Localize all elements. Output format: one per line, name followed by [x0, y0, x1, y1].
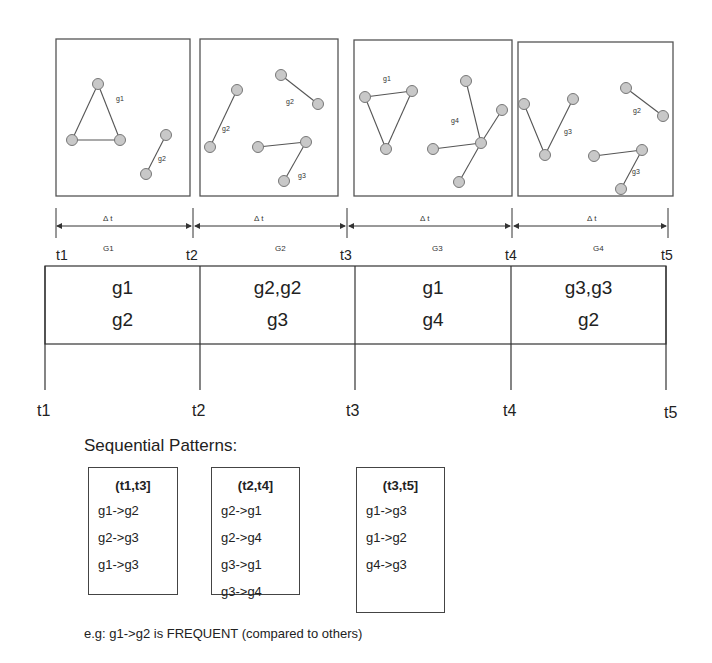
timeline-cell-line2: g3 — [200, 309, 355, 331]
timeline-cell-line1: g3,g3 — [511, 277, 666, 299]
group-label: G2 — [275, 244, 286, 253]
pattern-item: g1->g2 — [98, 503, 139, 518]
graph-label: g3 — [298, 172, 306, 179]
tick-label: t4 — [503, 402, 516, 420]
tick-label: t4 — [505, 247, 517, 263]
pattern-item: g1->g3 — [98, 557, 139, 572]
tick-label: t1 — [56, 247, 68, 263]
tick-label: t2 — [192, 402, 205, 420]
pattern-window-header: (t3,t5] — [357, 478, 444, 493]
interval-axis — [56, 208, 668, 238]
pattern-window-header: (t2,t4] — [212, 478, 299, 493]
timeline-cell-line2: g2 — [45, 309, 200, 331]
delta-t-label: Δ t — [254, 214, 263, 223]
group-label: G1 — [103, 244, 114, 253]
graph-label: g1 — [116, 95, 124, 102]
graph-label: g2 — [222, 125, 230, 132]
graph-panel-g2 — [200, 39, 338, 196]
delta-t-label: Δ t — [420, 214, 429, 223]
tick-label: t5 — [661, 247, 673, 263]
pattern-item: g3->g1 — [221, 557, 262, 572]
timeline-cell-line1: g1 — [355, 277, 511, 299]
tick-label: t3 — [346, 402, 359, 420]
tick-label: t3 — [340, 247, 352, 263]
graph-label: g2 — [286, 98, 294, 105]
pattern-item: g2->g4 — [221, 530, 262, 545]
graph-label: g2 — [158, 155, 166, 162]
graph-label: g2 — [633, 107, 641, 114]
timeline-cell-line1: g1 — [45, 277, 200, 299]
tick-label: t5 — [664, 404, 677, 422]
pattern-item: g3->g4 — [221, 584, 262, 599]
tick-label: t1 — [37, 402, 50, 420]
graph-label: g4 — [451, 117, 459, 124]
pattern-item: g2->g1 — [221, 503, 262, 518]
pattern-window-t1-t3: (t1,t3] g1->g2 g2->g3 g1->g3 — [88, 467, 178, 595]
graph-panel-g1 — [56, 39, 190, 196]
pattern-item: g1->g3 — [366, 503, 407, 518]
group-label: G4 — [593, 244, 604, 253]
frequency-note: e.g: g1->g2 is FREQUENT (compared to oth… — [84, 626, 362, 641]
graph-label: g3 — [632, 168, 640, 175]
tick-label: t2 — [186, 247, 198, 263]
graph-panel-g3 — [354, 40, 512, 196]
pattern-window-t3-t5: (t3,t5] g1->g3 g1->g2 g4->g3 — [356, 467, 445, 613]
pattern-item: g4->g3 — [366, 557, 407, 572]
graph-panel-g4 — [518, 42, 673, 196]
group-label: G3 — [432, 244, 443, 253]
pattern-item: g1->g2 — [366, 530, 407, 545]
delta-t-label: Δ t — [103, 214, 112, 223]
delta-t-label: Δ t — [587, 214, 596, 223]
graph-label: g1 — [383, 75, 391, 82]
sequential-patterns-title: Sequential Patterns: — [84, 436, 237, 456]
timeline-cell-line2: g4 — [355, 309, 511, 331]
timeline-cell-line2: g2 — [511, 309, 666, 331]
timeline-cell-line1: g2,g2 — [200, 277, 355, 299]
graph-label: g3 — [564, 128, 572, 135]
pattern-window-t2-t4: (t2,t4] g2->g1 g2->g4 g3->g1 g3->g4 — [211, 467, 300, 595]
pattern-window-header: (t1,t3] — [89, 478, 177, 493]
pattern-item: g2->g3 — [98, 530, 139, 545]
